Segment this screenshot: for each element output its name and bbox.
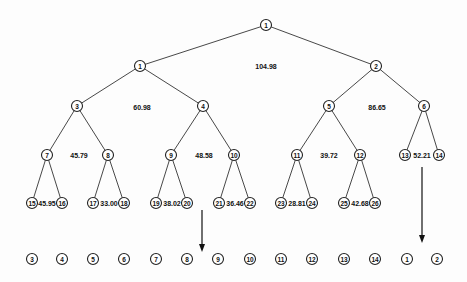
- tree-node: 10: [229, 150, 240, 161]
- tree-node: 17: [88, 198, 99, 209]
- node-label: 8: [106, 152, 110, 159]
- node-label: 14: [371, 256, 379, 263]
- node-label: 16: [58, 200, 66, 207]
- node-label: 19: [152, 200, 160, 207]
- merge-value: 52.21: [413, 152, 431, 159]
- tree-diagram: 104.9860.9886.6545.7948.5839.7252.2145.9…: [0, 0, 467, 282]
- tree-node: 21: [214, 198, 225, 209]
- arrow-down-icon: [419, 235, 425, 243]
- order-node: 4: [57, 254, 68, 265]
- tree-svg: 104.9860.9886.6545.7948.5839.7252.2145.9…: [0, 0, 467, 282]
- order-node: 13: [339, 254, 350, 265]
- tree-node: 24: [307, 198, 318, 209]
- order-node: 3: [27, 254, 38, 265]
- tree-node: 5: [324, 101, 335, 112]
- order-node: 12: [307, 254, 318, 265]
- order-node: 6: [119, 254, 130, 265]
- tree-edge: [360, 155, 375, 203]
- tree-node: 3: [72, 101, 83, 112]
- node-label: 1: [138, 63, 142, 70]
- node-label: 17: [89, 200, 97, 207]
- node-label: 11: [278, 256, 285, 263]
- node-label: 8: [185, 256, 189, 263]
- tree-edges: [32, 25, 439, 203]
- tree-nodes: 1123456789101112131415161718192021222324…: [27, 20, 445, 209]
- tree-edge: [329, 106, 360, 155]
- node-label: 1: [405, 256, 409, 263]
- tree-edge: [297, 106, 329, 155]
- tree-edge: [171, 106, 203, 155]
- tree-node: 13: [400, 150, 411, 161]
- merge-value: 60.98: [133, 104, 151, 111]
- tree-node: 14: [434, 150, 445, 161]
- node-label: 26: [371, 200, 379, 207]
- tree-edge: [47, 106, 77, 155]
- tree-edge: [77, 106, 108, 155]
- tree-edge: [203, 106, 234, 155]
- order-node: 9: [213, 254, 224, 265]
- node-label: 23: [277, 200, 285, 207]
- node-label: 1: [264, 22, 268, 29]
- tree-node: 12: [355, 150, 366, 161]
- order-node: 2: [432, 254, 443, 265]
- node-label: 7: [154, 256, 158, 263]
- merge-value: 86.65: [368, 104, 386, 111]
- tree-edge: [32, 155, 47, 203]
- node-label: 2: [435, 256, 439, 263]
- node-label: 7: [45, 152, 49, 159]
- node-label: 22: [246, 200, 254, 207]
- order-node: 11: [276, 254, 287, 265]
- node-label: 9: [169, 152, 173, 159]
- tree-node: 4: [198, 101, 209, 112]
- node-label: 10: [230, 152, 238, 159]
- node-label: 11: [294, 152, 301, 159]
- node-label: 18: [120, 200, 128, 207]
- node-label: 25: [340, 200, 348, 207]
- tree-node: 22: [245, 198, 256, 209]
- merge-value: 42.68: [351, 200, 369, 207]
- order-node: 5: [88, 254, 99, 265]
- node-label: 3: [75, 103, 79, 110]
- node-label: 15: [28, 200, 36, 207]
- node-label: 21: [215, 200, 223, 207]
- merge-value: 33.00: [100, 200, 118, 207]
- tree-edge: [329, 66, 376, 106]
- tree-node: 1: [135, 61, 146, 72]
- tree-edge: [266, 25, 376, 66]
- node-label: 5: [327, 103, 331, 110]
- tree-edge: [281, 155, 297, 203]
- node-label: 20: [183, 200, 191, 207]
- tree-node: 11: [292, 150, 303, 161]
- merge-value: 45.79: [70, 152, 88, 159]
- tree-edge: [140, 66, 203, 106]
- tree-node: 2: [371, 61, 382, 72]
- tree-edge: [219, 155, 234, 203]
- node-label: 4: [201, 103, 205, 110]
- tree-edge: [405, 106, 424, 155]
- merge-value: 36.46: [226, 200, 244, 207]
- tree-node: 23: [276, 198, 287, 209]
- merge-value: 39.72: [320, 152, 338, 159]
- tree-node: 20: [182, 198, 193, 209]
- tree-edge: [297, 155, 312, 203]
- tree-node: 6: [419, 101, 430, 112]
- tree-edge: [93, 155, 108, 203]
- tree-edge: [47, 155, 62, 203]
- order-node: 7: [151, 254, 162, 265]
- order-node: 14: [370, 254, 381, 265]
- tree-edge: [171, 155, 187, 203]
- tree-node: 15: [27, 198, 38, 209]
- merge-value: 28.81: [288, 200, 306, 207]
- tree-edge: [344, 155, 360, 203]
- merge-value: 38.02: [163, 200, 181, 207]
- merge-value: 45.95: [38, 200, 56, 207]
- arrows: [199, 167, 425, 252]
- merge-value: 48.58: [195, 152, 213, 159]
- merge-value: 104.98: [255, 63, 277, 70]
- tree-edge: [424, 106, 439, 155]
- order-node: 10: [245, 254, 256, 265]
- node-label: 12: [308, 256, 316, 263]
- merge-values: 104.9860.9886.6545.7948.5839.7252.2145.9…: [38, 63, 431, 207]
- tree-node: 19: [151, 198, 162, 209]
- node-label: 5: [91, 256, 95, 263]
